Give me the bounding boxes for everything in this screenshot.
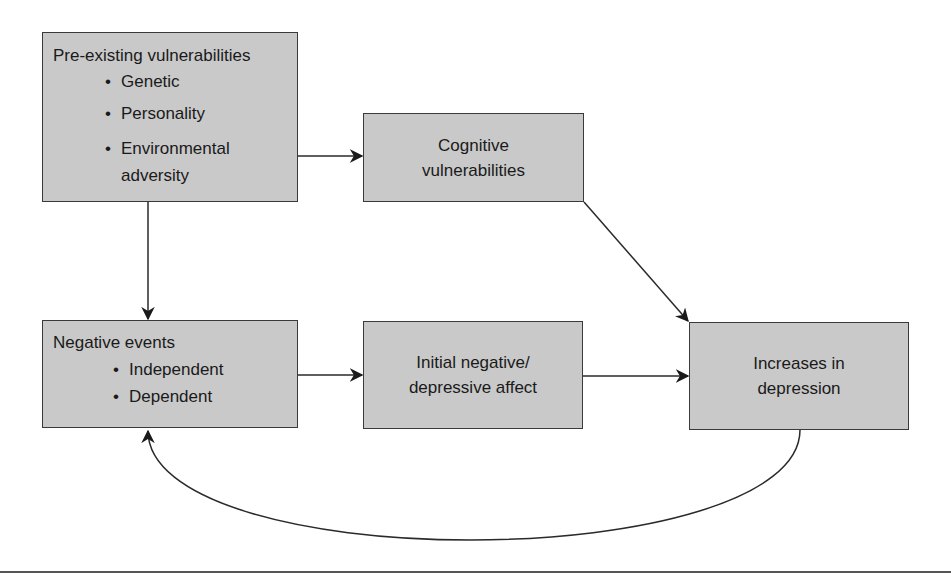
node-preexisting-vulnerabilities: Pre-existing vulnerabilities •Genetic •P… xyxy=(42,32,298,202)
bullet-icon: • xyxy=(113,386,119,407)
item-label: Dependent xyxy=(129,387,212,406)
node-label-line1: Initial negative/ xyxy=(416,352,529,373)
list-item: •Genetic xyxy=(105,71,297,92)
node-cognitive-vulnerabilities: Cognitive vulnerabilities xyxy=(363,113,584,202)
bottom-rule-divider xyxy=(0,571,951,573)
event-type-list: •Independent •Dependent xyxy=(113,359,297,407)
list-item: •Personality xyxy=(105,103,297,124)
node-title: Pre-existing vulnerabilities xyxy=(53,45,297,66)
node-label-line2: depressive affect xyxy=(409,377,537,398)
list-item: •Dependent xyxy=(113,386,297,407)
list-item: •Independent xyxy=(113,359,297,380)
bullet-icon: • xyxy=(113,359,119,380)
node-negative-events: Negative events •Independent •Dependent xyxy=(42,320,298,428)
node-label-line2: vulnerabilities xyxy=(422,160,525,181)
item-label: Genetic xyxy=(121,72,180,91)
bullet-icon: • xyxy=(105,103,111,124)
vulnerability-list: •Genetic •Personality •Environmentaladve… xyxy=(105,71,297,189)
item-label-continuation: adversity xyxy=(121,166,189,185)
bullet-icon: • xyxy=(105,71,111,92)
list-item: •Environmentaladversity xyxy=(105,135,297,189)
node-label-line2: depression xyxy=(757,378,840,399)
node-label-line1: Increases in xyxy=(753,353,845,374)
node-increases-in-depression: Increases in depression xyxy=(689,322,909,430)
node-title: Negative events xyxy=(53,332,297,353)
edge-feedback-increases-to-negative-events xyxy=(148,430,800,540)
item-label: Personality xyxy=(121,104,205,123)
item-label: Independent xyxy=(129,360,224,379)
bullet-icon: • xyxy=(105,135,111,162)
node-initial-negative-affect: Initial negative/ depressive affect xyxy=(363,321,583,429)
item-label: Environmental xyxy=(121,139,230,158)
edge-cognitive-to-increases xyxy=(584,202,688,321)
node-label-line1: Cognitive xyxy=(438,135,509,156)
